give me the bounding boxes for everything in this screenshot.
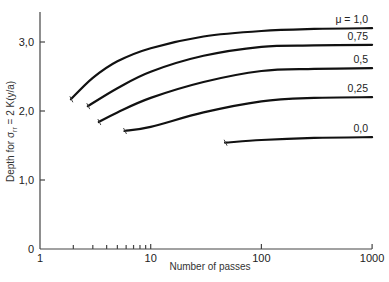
curve-label: μ = 1,0	[335, 13, 368, 25]
curve-labels: μ = 1,00,750,50,250,0	[335, 13, 368, 134]
curve-mu-3	[125, 97, 373, 131]
curve-label: 0,75	[348, 30, 369, 42]
y-tick-label: 2,0	[19, 105, 34, 117]
y-tick-label: 0	[28, 243, 34, 255]
axes	[40, 12, 372, 249]
curves	[70, 28, 372, 146]
ticks	[40, 42, 372, 249]
x-tick-label: 1	[37, 252, 43, 264]
x-axis-label: Number of passes	[169, 261, 250, 272]
y-tick-label: 3,0	[19, 36, 34, 48]
x-tick-label: 10	[145, 252, 157, 264]
x-tick-label: 100	[252, 252, 270, 264]
curve-label: 0,5	[353, 53, 368, 65]
x-tick-label: 1000	[360, 252, 384, 264]
tick-labels: 01,02,03,01101001000	[19, 36, 385, 264]
y-axis-label: Depth for σrr = 2 K(y/a)	[5, 81, 18, 182]
curve-label: 0,0	[353, 122, 368, 134]
depth-vs-passes-chart: 01,02,03,01101001000 μ = 1,00,750,50,250…	[0, 0, 389, 282]
curve-mu-4	[225, 137, 372, 143]
y-tick-label: 1,0	[19, 174, 34, 186]
curve-label: 0,25	[348, 82, 369, 94]
